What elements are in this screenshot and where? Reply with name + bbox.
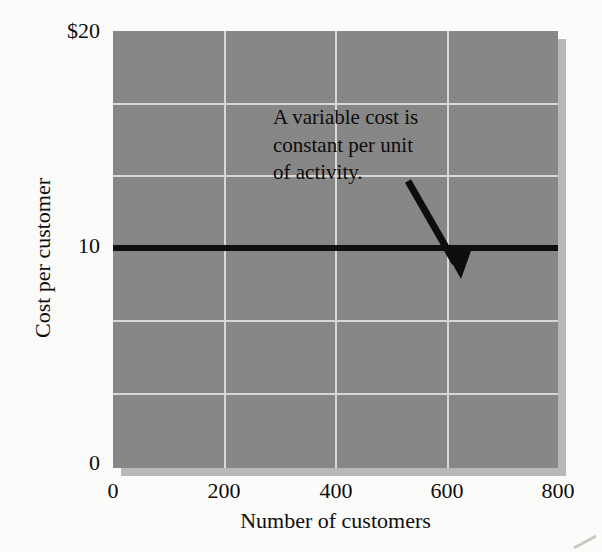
annotation-line-1: A variable cost is xyxy=(273,104,443,132)
x-tick-label-400: 400 xyxy=(296,478,376,504)
annotation-arrow-icon xyxy=(393,171,493,286)
x-tick-label-800: 800 xyxy=(518,478,598,504)
y-tick-label-20: $20 xyxy=(10,18,100,44)
x-axis-title: Number of customers xyxy=(113,508,558,534)
plot-panel: A variable cost is constant per unit of … xyxy=(113,31,558,468)
variable-cost-chart-figure: A variable cost is constant per unit of … xyxy=(0,0,602,552)
y-tick-label-0: 0 xyxy=(10,450,100,476)
x-tick-label-0: 0 xyxy=(73,478,153,504)
y-axis-title: Cost per customer xyxy=(30,158,56,358)
page-corner-artifact xyxy=(572,534,598,550)
x-tick-label-200: 200 xyxy=(184,478,264,504)
x-tick-label-600: 600 xyxy=(407,478,487,504)
annotation-line-2: constant per unit xyxy=(273,132,443,160)
